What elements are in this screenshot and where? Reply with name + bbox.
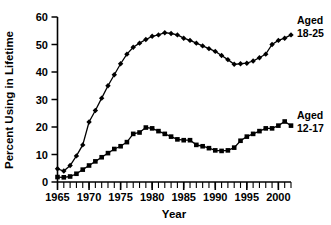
data-point-marker xyxy=(125,140,130,145)
data-point-marker xyxy=(219,149,224,154)
data-point-marker xyxy=(270,126,275,131)
data-point-marker xyxy=(112,147,117,152)
y-tick-label: 10 xyxy=(36,149,48,161)
data-point-marker xyxy=(282,35,287,40)
data-point-marker xyxy=(257,129,262,134)
series-label-18-25-line1: Aged xyxy=(297,14,323,26)
series-line xyxy=(58,33,292,171)
data-point-marker xyxy=(169,134,174,139)
x-tick-label: 1975 xyxy=(108,191,132,203)
data-point-marker xyxy=(200,43,205,48)
data-point-marker xyxy=(93,159,98,164)
data-point-marker xyxy=(80,167,85,172)
x-tick-label: 1980 xyxy=(140,191,164,203)
x-axis-tick-labels: 19651970197519801985199019952000 xyxy=(45,191,290,203)
data-point-marker xyxy=(251,132,256,137)
data-point-marker xyxy=(194,143,199,148)
data-point-marker xyxy=(276,123,281,128)
x-axis-major-ticks xyxy=(58,182,279,190)
chart-svg: 0102030405060 19651970197519801985199019… xyxy=(0,0,331,225)
data-point-marker xyxy=(112,72,117,77)
data-point-marker xyxy=(55,175,60,180)
x-tick-label: 1985 xyxy=(171,191,195,203)
data-point-marker xyxy=(175,137,180,142)
data-point-marker xyxy=(156,32,161,37)
data-point-marker xyxy=(206,46,211,51)
y-axis-ticks xyxy=(52,17,58,182)
data-point-marker xyxy=(55,166,60,171)
data-point-marker xyxy=(149,34,154,39)
data-point-marker xyxy=(74,171,79,176)
series-line xyxy=(58,122,292,178)
data-point-marker xyxy=(244,61,249,66)
data-point-marker xyxy=(105,83,110,88)
data-point-marker xyxy=(250,58,255,63)
series-label-18-25-line2: 18-25 xyxy=(297,27,324,39)
data-point-marker xyxy=(257,55,262,60)
data-point-marker xyxy=(288,32,293,37)
data-point-marker xyxy=(181,138,186,143)
data-point-marker xyxy=(93,108,98,113)
data-point-marker xyxy=(99,155,104,160)
data-point-marker xyxy=(99,95,104,100)
data-point-marker xyxy=(194,40,199,45)
y-axis-label: Percent Using in Lifetime xyxy=(3,31,15,169)
y-tick-label: 40 xyxy=(36,66,48,78)
series-aged-18-25 xyxy=(55,30,294,174)
data-point-marker xyxy=(289,123,294,128)
data-point-marker xyxy=(282,119,287,124)
data-point-marker xyxy=(150,126,155,131)
x-axis-label: Year xyxy=(162,208,187,220)
line-chart: 0102030405060 19651970197519801985199019… xyxy=(0,0,331,225)
data-point-marker xyxy=(137,130,142,135)
data-point-marker xyxy=(187,38,192,43)
x-tick-label: 2000 xyxy=(266,191,290,203)
data-point-marker xyxy=(168,31,173,36)
data-point-marker xyxy=(226,148,231,153)
series-label-12-17-line2: 12-17 xyxy=(297,122,324,134)
series-annotation-aged-18-25: Aged 18-25 xyxy=(297,14,324,39)
y-tick-label: 0 xyxy=(42,176,48,188)
data-point-marker xyxy=(162,30,167,35)
x-tick-label: 1995 xyxy=(235,191,259,203)
x-tick-label: 1965 xyxy=(45,191,69,203)
y-tick-label: 50 xyxy=(36,39,48,51)
y-tick-label: 60 xyxy=(36,11,48,23)
y-axis-tick-labels: 0102030405060 xyxy=(36,11,48,188)
data-point-marker xyxy=(245,134,250,139)
y-tick-label: 30 xyxy=(36,94,48,106)
data-point-marker xyxy=(238,61,243,66)
series-label-12-17-line1: Aged xyxy=(297,109,323,121)
y-tick-label: 20 xyxy=(36,121,48,133)
data-point-marker xyxy=(86,119,91,124)
series-aged-12-17 xyxy=(55,119,293,179)
data-point-marker xyxy=(162,132,167,137)
data-point-marker xyxy=(62,175,67,180)
data-point-marker xyxy=(80,142,85,147)
data-point-marker xyxy=(213,148,218,153)
data-point-marker xyxy=(131,132,136,137)
data-point-marker xyxy=(156,129,161,134)
data-point-marker xyxy=(144,125,149,130)
data-point-marker xyxy=(118,144,123,149)
data-point-marker xyxy=(207,146,212,151)
data-point-marker xyxy=(175,32,180,37)
data-point-marker xyxy=(188,138,193,143)
data-series-group xyxy=(55,30,294,180)
x-tick-label: 1970 xyxy=(77,191,101,203)
series-annotation-aged-12-17: Aged 12-17 xyxy=(297,109,324,134)
data-point-marker xyxy=(106,151,111,156)
data-point-marker xyxy=(263,126,268,131)
data-point-marker xyxy=(238,138,243,143)
x-axis-minor-ticks xyxy=(58,182,292,188)
data-point-marker xyxy=(181,35,186,40)
data-point-marker xyxy=(87,163,92,168)
data-point-marker xyxy=(200,144,205,149)
x-tick-label: 1990 xyxy=(203,191,227,203)
data-point-marker xyxy=(143,37,148,42)
data-point-marker xyxy=(232,145,237,150)
data-point-marker xyxy=(68,174,73,179)
